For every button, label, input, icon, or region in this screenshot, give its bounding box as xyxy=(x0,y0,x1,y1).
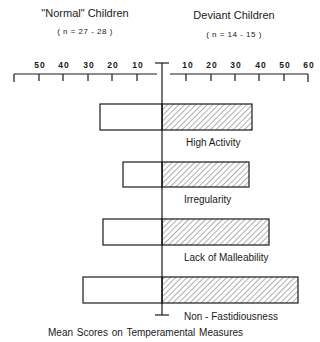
bar-normal-irregularity xyxy=(123,162,162,187)
bar-deviant-irregularity xyxy=(162,162,249,187)
tick-left-10: 10 xyxy=(132,60,143,70)
tick-right-40: 40 xyxy=(255,60,266,70)
bar-normal-high-activity xyxy=(100,104,162,130)
tick-left-50: 50 xyxy=(34,60,45,70)
bar-deviant-high-activity xyxy=(162,104,252,130)
tick-right-10: 10 xyxy=(182,60,193,70)
tick-right-50: 50 xyxy=(279,60,290,70)
tick-left-40: 40 xyxy=(58,60,69,70)
bar-label-non-fastidiousness: Non - Fastidiousness xyxy=(184,311,278,322)
tick-right-30: 30 xyxy=(230,60,241,70)
bar-label-high-activity: High Activity xyxy=(186,137,240,148)
tick-left-30: 30 xyxy=(83,60,94,70)
bar-group-non-fastidiousness xyxy=(83,277,298,303)
bar-group-irregularity xyxy=(123,162,249,187)
bar-label-lack-of-malleability: Lack of Malleability xyxy=(184,252,268,263)
chart-canvas xyxy=(0,0,320,342)
bar-deviant-non-fastidiousness xyxy=(162,277,298,303)
bar-deviant-malleability xyxy=(162,219,269,245)
bar-group-high-activity xyxy=(100,104,252,130)
bar-group-lack-of-malleability xyxy=(103,219,269,245)
bar-label-irregularity: Irregularity xyxy=(184,194,231,205)
x-axis xyxy=(14,74,308,82)
bar-normal-malleability xyxy=(103,219,162,245)
tick-left-20: 20 xyxy=(107,60,118,70)
tick-right-20: 20 xyxy=(206,60,217,70)
bar-normal-non-fastidiousness xyxy=(83,277,162,303)
tick-right-60: 60 xyxy=(303,60,314,70)
chart-caption: Mean Scores on Temperamental Measures xyxy=(48,327,243,338)
